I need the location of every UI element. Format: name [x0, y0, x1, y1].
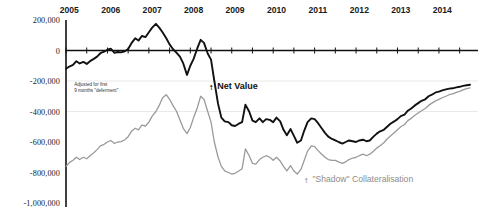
y-axis-tick-label: -400,000 — [30, 108, 60, 117]
y-axis-tick-label: 200,000 — [33, 16, 60, 25]
x-axis-tick-labels: 2005200620072008200920102011201220132014 — [60, 5, 452, 15]
x-axis-tick-label: 2006 — [101, 5, 120, 15]
y-axis-tick-label: -600,000 — [30, 138, 60, 147]
deferment-note-line1: Adjusted for first — [74, 82, 108, 87]
chart-container: 200,0000-200,000-400,000-600,000-800,000… — [0, 0, 481, 217]
y-axis-tick-labels: 200,0000-200,000-400,000-600,000-800,000… — [24, 16, 60, 208]
x-axis-tick-label: 2012 — [350, 5, 369, 15]
series-line-net-value — [66, 24, 470, 144]
net-value-label: Net Value — [217, 81, 258, 91]
y-axis-tick-label: -1,000,000 — [24, 199, 60, 208]
line-chart: 200,0000-200,000-400,000-600,000-800,000… — [0, 0, 481, 217]
gridlines — [66, 81, 478, 112]
shadow-collateralisation-label: "Shadow" Collateralisation — [312, 174, 413, 184]
y-axis-tick-label: -200,000 — [30, 77, 60, 86]
deferment-note-line2: 9 months "deferment" — [74, 88, 118, 93]
x-axis-tick-label: 2009 — [225, 5, 244, 15]
y-axis-tick-label: 0 — [56, 47, 60, 56]
x-axis-tick-label: 2013 — [391, 5, 410, 15]
y-axis-tick-label: -800,000 — [30, 169, 60, 178]
x-axis-tick-label: 2010 — [267, 5, 286, 15]
x-axis-tick-label: 2011 — [309, 5, 328, 15]
series-line-shadow-collateralisation — [66, 88, 470, 174]
x-axis-tick-label: 2005 — [60, 5, 79, 15]
x-axis-tick-label: 2008 — [184, 5, 203, 15]
x-axis-tick-label: 2007 — [143, 5, 162, 15]
shadow-label-caret-icon: ➚ — [302, 175, 311, 184]
x-axis-tick-label: 2014 — [433, 5, 452, 15]
